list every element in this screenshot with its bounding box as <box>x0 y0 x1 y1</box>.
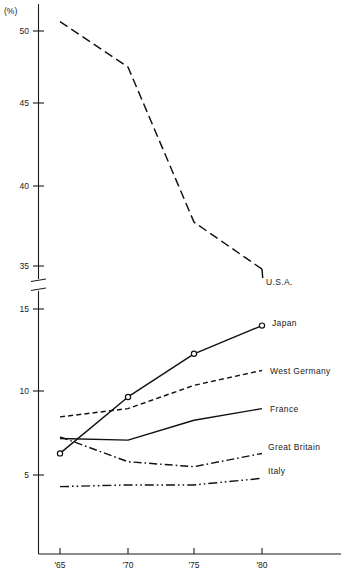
series-u-s-a <box>60 22 263 281</box>
series-layer <box>57 22 264 487</box>
series-label-west-germany: West Germany <box>270 366 331 376</box>
y-tick-label-45: 45 <box>20 98 30 108</box>
x-tick-label-65: '65 <box>54 560 65 570</box>
y-axis-break-icon <box>31 279 46 291</box>
y-tick-label-10: 10 <box>20 386 30 396</box>
series-france <box>60 409 262 441</box>
series-japan <box>57 323 264 456</box>
series-line <box>60 478 262 486</box>
series-label-usa: U.S.A. <box>266 277 293 287</box>
axis-group <box>31 4 341 554</box>
x-tick-label-75: '75 <box>188 560 199 570</box>
series-line <box>60 437 262 467</box>
series-line <box>60 370 262 416</box>
y-tick-label-50: 50 <box>20 26 30 36</box>
chart-container: 50 45 40 35 15 10 5 (%) '65 '70 '75 '80 … <box>0 0 343 575</box>
series-line <box>60 22 262 270</box>
y-tick-label-15: 15 <box>20 304 30 314</box>
series-leader <box>262 269 263 281</box>
y-tick-label-5: 5 <box>24 470 29 480</box>
y-axis-unit-label: (%) <box>4 6 17 16</box>
y-tick-label-35: 35 <box>20 261 30 271</box>
series-label-japan: Japan <box>272 318 297 328</box>
x-tick-label-70: '70 <box>122 560 133 570</box>
x-ticks <box>60 548 262 554</box>
data-point-marker <box>191 351 196 356</box>
series-west-germany <box>60 370 262 416</box>
series-italy <box>60 478 262 486</box>
series-label-great-britain: Great Britain <box>268 442 320 452</box>
series-great-britain <box>60 437 262 467</box>
data-point-marker <box>259 323 264 328</box>
series-line <box>60 409 262 441</box>
data-point-marker <box>125 394 130 399</box>
y-tick-label-40: 40 <box>20 181 30 191</box>
series-line <box>60 326 262 454</box>
series-label-france: France <box>270 404 299 414</box>
line-chart: 50 45 40 35 15 10 5 (%) '65 '70 '75 '80 … <box>0 0 343 575</box>
series-label-italy: Italy <box>268 466 286 476</box>
data-point-marker <box>57 451 62 456</box>
x-tick-label-80: '80 <box>256 560 267 570</box>
